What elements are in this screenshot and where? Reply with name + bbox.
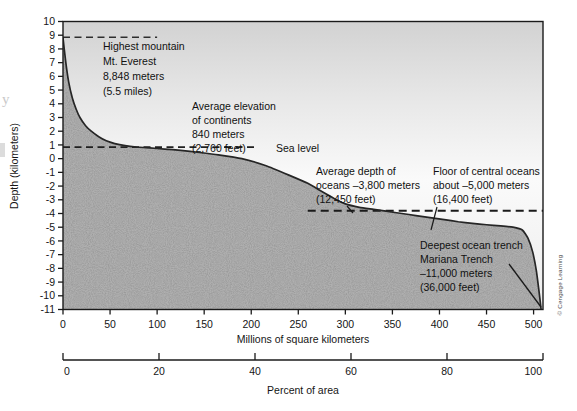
x-axis-tick-label: 100 [148,318,166,330]
x-axis-tick-label: 500 [525,318,543,330]
y-axis-tick-label: -9 [46,276,55,288]
y-axis-tick-label: 0 [49,152,55,164]
y-axis-tick-label: -1 [46,166,55,178]
y-axis-tick-label: -2 [46,180,55,192]
y-axis-tick-label: 6 [49,70,55,82]
x-axis-secondary-tick-label: 0 [64,365,70,377]
y-axis-tick-label: -5 [46,221,55,233]
annotation-central-floor-line-2: about –5,000 meters [433,179,529,191]
x-axis-secondary-tick-label: 80 [441,365,453,377]
x-axis-secondary-title: Percent of area [267,384,339,396]
y-axis-tick-label: 7 [49,56,55,68]
x-axis-tick-label: 250 [290,318,308,330]
annotation-central-floor-line-1: Floor of central oceans [433,165,540,177]
y-axis-tick-label: -8 [46,262,55,274]
copyright-credit: © Cengage Learning [556,254,563,315]
x-axis-tick-label: 300 [337,318,355,330]
annotation-mariana-line-2: Mariana Trench [420,253,493,265]
annotation-mariana-line-1: Deepest ocean trench [420,239,523,251]
annotation-avg-ocean-depth-line-1: Average depth of [316,165,396,177]
y-axis-tick-label: -10 [40,289,55,301]
x-axis-tick-label: 0 [60,318,66,330]
y-axis-tick-label: 10 [43,15,55,27]
x-axis-tick-label: 450 [478,318,496,330]
margin-artifact-mark [0,143,5,157]
x-axis-secondary-tick-label: 100 [524,365,542,377]
y-axis-tick-label: 5 [49,84,55,96]
y-axis-tick-label: -4 [46,207,55,219]
margin-artifact-letter: y [2,91,10,107]
annotation-avg-ocean-depth-line-2: oceans –3,800 meters [316,179,420,191]
x-axis-tick-label: 400 [431,318,449,330]
x-axis-secondary-tick-label: 60 [345,365,357,377]
annotation-everest-line-1: Highest mountain [103,40,185,52]
figure-root: y 109876543210-1-2-3-4-5-6-7-8-9-10-11 D… [0,0,577,411]
x-axis-secondary-tick-label: 40 [249,365,261,377]
x-axis-secondary-tick-label: 20 [153,365,165,377]
annotation-everest-line-4: (5.5 miles) [103,85,152,97]
annotation-continents-line-2: of continents [192,114,252,126]
annotation-central-floor-line-3: (16,400 feet) [433,193,493,205]
y-axis-tick-label: 4 [49,97,55,109]
hypsographic-curve-figure: y 109876543210-1-2-3-4-5-6-7-8-9-10-11 D… [0,0,577,411]
annotation-continents-line-3: 840 meters [192,128,245,140]
annotation-everest-line-3: 8,848 meters [103,70,164,82]
y-axis-tick-label: -6 [46,235,55,247]
x-axis-tick-label: 150 [195,318,213,330]
y-axis-tick-label: -7 [46,248,55,260]
x-axis-tick-label: 200 [242,318,260,330]
x-axis-primary-title: Millions of square kilometers [237,333,369,345]
annotation-continents-line-1: Average elevation [192,100,276,112]
y-axis-tick-label: 3 [49,111,55,123]
x-axis-tick-label: 50 [104,318,116,330]
annotation-avg-ocean-depth-line-3: (12,450 feet) [316,193,376,205]
y-axis-tick-label: 2 [49,125,55,137]
y-axis-tick-label: 8 [49,43,55,55]
annotation-everest-line-2: Mt. Everest [103,55,156,67]
annotation-mariana-line-4: (36,000 feet) [420,281,480,293]
y-axis-tick-label: -3 [46,193,55,205]
y-axis-tick-label: -11 [41,303,56,315]
annotation-sea-level: Sea level [276,142,319,154]
annotation-continents-line-4: (2,760 feet) [192,142,246,154]
y-axis-tick-label: 9 [49,29,55,41]
y-axis-tick-label: 1 [49,139,55,151]
y-axis-title: Depth (kilometers) [8,123,20,209]
x-axis-tick-label: 350 [384,318,402,330]
annotation-mariana-line-3: –11,000 meters [420,267,492,279]
